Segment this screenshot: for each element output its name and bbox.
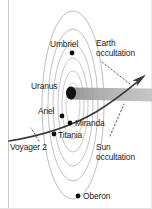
voyager-uranus-encounter-figure: Uranus Voyager 2 UmbrielArielMirandaTita… [0, 0, 152, 209]
figure-frame [0, 0, 152, 209]
earth-occultation-label-line2: occultation [96, 49, 135, 59]
planet-shadow-cone [71, 87, 152, 101]
moon-marker-miranda [68, 121, 73, 126]
moon-marker-oberon [76, 194, 81, 199]
ring-ellipse-2 [62, 71, 84, 139]
sun-occultation-leader-line [110, 104, 124, 136]
ring-ellipse-4 [53, 44, 93, 166]
trajectory-label-voyager-2: Voyager 2 [10, 143, 47, 153]
earth-occultation-leader-line [102, 62, 130, 84]
moon-marker-titania [52, 132, 57, 137]
sun-occultation-label-line2: occultation [96, 153, 135, 163]
diagram-vector-layer [0, 0, 152, 209]
earth-occultation-label: Earthoccultation [96, 39, 135, 58]
planet-label-uranus: Uranus [31, 82, 57, 92]
sun-occultation-label: Sunoccultation [96, 143, 135, 162]
moon-label-titania: Titania [58, 131, 82, 141]
moon-marker-umbriel [70, 51, 75, 56]
moon-marker-ariel [60, 114, 65, 119]
moon-label-miranda: Miranda [75, 119, 105, 129]
moon-label-oberon: Oberon [83, 192, 110, 202]
moon-label-ariel: Ariel [38, 107, 54, 117]
uranus-planet-terminator [67, 87, 71, 100]
moon-label-umbriel: Umbriel [50, 40, 78, 50]
